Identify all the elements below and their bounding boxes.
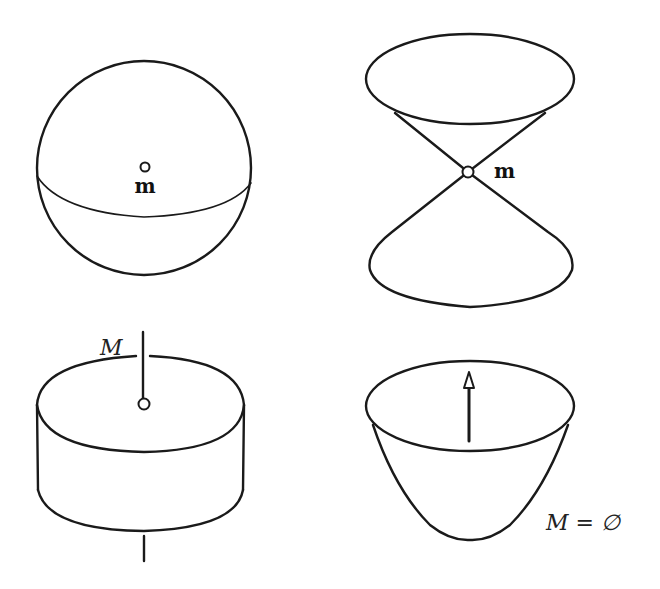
paraboloid-body [373, 425, 568, 540]
cylinder-top-rim-back-left [37, 356, 136, 405]
double-cone-panel: m [366, 34, 574, 307]
paraboloid-panel: M = ∅ [366, 361, 621, 540]
point-label-m: m [494, 159, 515, 183]
set-label-M-empty: M = ∅ [545, 510, 621, 535]
critical-point-marker [141, 163, 150, 172]
cylinder-right-side [243, 405, 244, 490]
axis-rod-endpoint-marker [139, 399, 150, 410]
sphere-panel: m [37, 61, 251, 275]
point-label-m: m [134, 174, 155, 198]
cylinder-top-rim-back-right [150, 356, 244, 405]
arrow-up-icon [464, 372, 474, 388]
figure-canvas: m m M M = ∅ [0, 0, 660, 589]
set-label-M: M [99, 335, 123, 360]
cylinder-left-side [37, 405, 38, 490]
cylinder-top-rim-front [37, 405, 244, 452]
upper-cone-rim [366, 34, 574, 124]
cylinder-bottom-rim [38, 490, 243, 531]
lower-cone-outline [369, 172, 572, 307]
cylinder-panel: M [37, 332, 244, 561]
cone-vertex-marker [463, 167, 474, 178]
